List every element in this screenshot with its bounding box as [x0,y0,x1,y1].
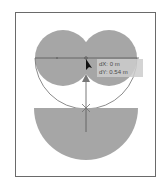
delta-y-label: dY: 0.54 m [99,68,141,76]
delta-x-label: dX: 0 m [99,60,141,68]
move-delta-tooltip: dX: 0 m dY: 0.54 m [97,59,143,77]
drawing-canvas[interactable] [0,0,166,193]
guide-tick-point [56,57,58,59]
